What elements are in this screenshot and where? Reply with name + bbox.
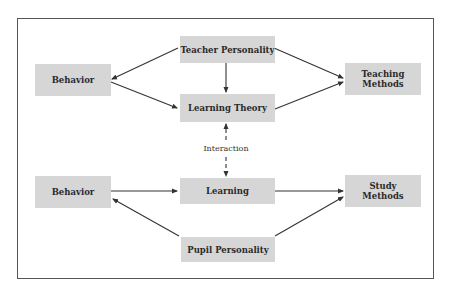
node-study-methods: Study Methods xyxy=(345,175,421,207)
node-teacher-personality: Teacher Personality xyxy=(180,36,275,63)
node-label: Learning Theory xyxy=(188,103,267,113)
node-label: Behavior xyxy=(52,187,95,197)
node-pupil-personality: Pupil Personality xyxy=(181,237,275,262)
node-behavior-bottom: Behavior xyxy=(35,176,111,208)
interaction-label: Interaction xyxy=(196,144,256,153)
arrow-teacher-to-behavior xyxy=(112,48,178,79)
arrow-behavior-to-learning-theory xyxy=(111,82,177,108)
node-learning-theory: Learning Theory xyxy=(180,94,275,122)
node-label-line2: Methods xyxy=(362,79,403,89)
node-label: Behavior xyxy=(52,75,95,85)
node-label: Teacher Personality xyxy=(181,45,275,55)
node-label: Learning xyxy=(206,186,249,196)
node-label-line1: Study xyxy=(369,181,396,191)
arrow-teacher-to-teaching-methods xyxy=(274,48,343,78)
arrow-pupil-to-behavior xyxy=(113,199,179,236)
node-label-line1: Teaching xyxy=(362,69,405,79)
node-learning: Learning xyxy=(180,178,275,204)
arrow-learning-theory-to-teaching-methods xyxy=(275,82,343,109)
node-label: Pupil Personality xyxy=(187,245,268,255)
node-label-line2: Methods xyxy=(362,191,403,201)
node-behavior-top: Behavior xyxy=(35,64,111,96)
arrow-pupil-to-study-methods xyxy=(275,197,343,236)
node-teaching-methods: Teaching Methods xyxy=(345,63,421,95)
